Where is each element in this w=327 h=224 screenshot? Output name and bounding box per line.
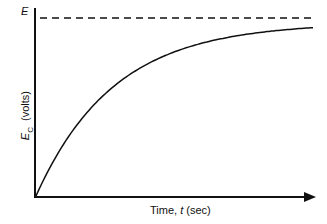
- y-axis-label: EC (volts): [19, 76, 34, 156]
- x-axis-arrow-icon: [304, 192, 316, 202]
- x-axis-label: Time, t (sec): [150, 204, 211, 216]
- asymptote-label: E: [21, 5, 28, 17]
- charging-curve: [36, 28, 313, 196]
- chart-canvas: [0, 0, 327, 224]
